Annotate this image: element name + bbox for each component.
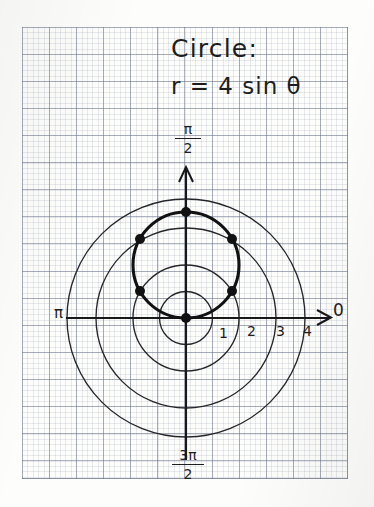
notebook-page: Circle: r = 4 sin θ π 2 3π 2 π 0 1 2 3 4	[0, 0, 374, 507]
paper-shading-overlay	[0, 0, 374, 507]
